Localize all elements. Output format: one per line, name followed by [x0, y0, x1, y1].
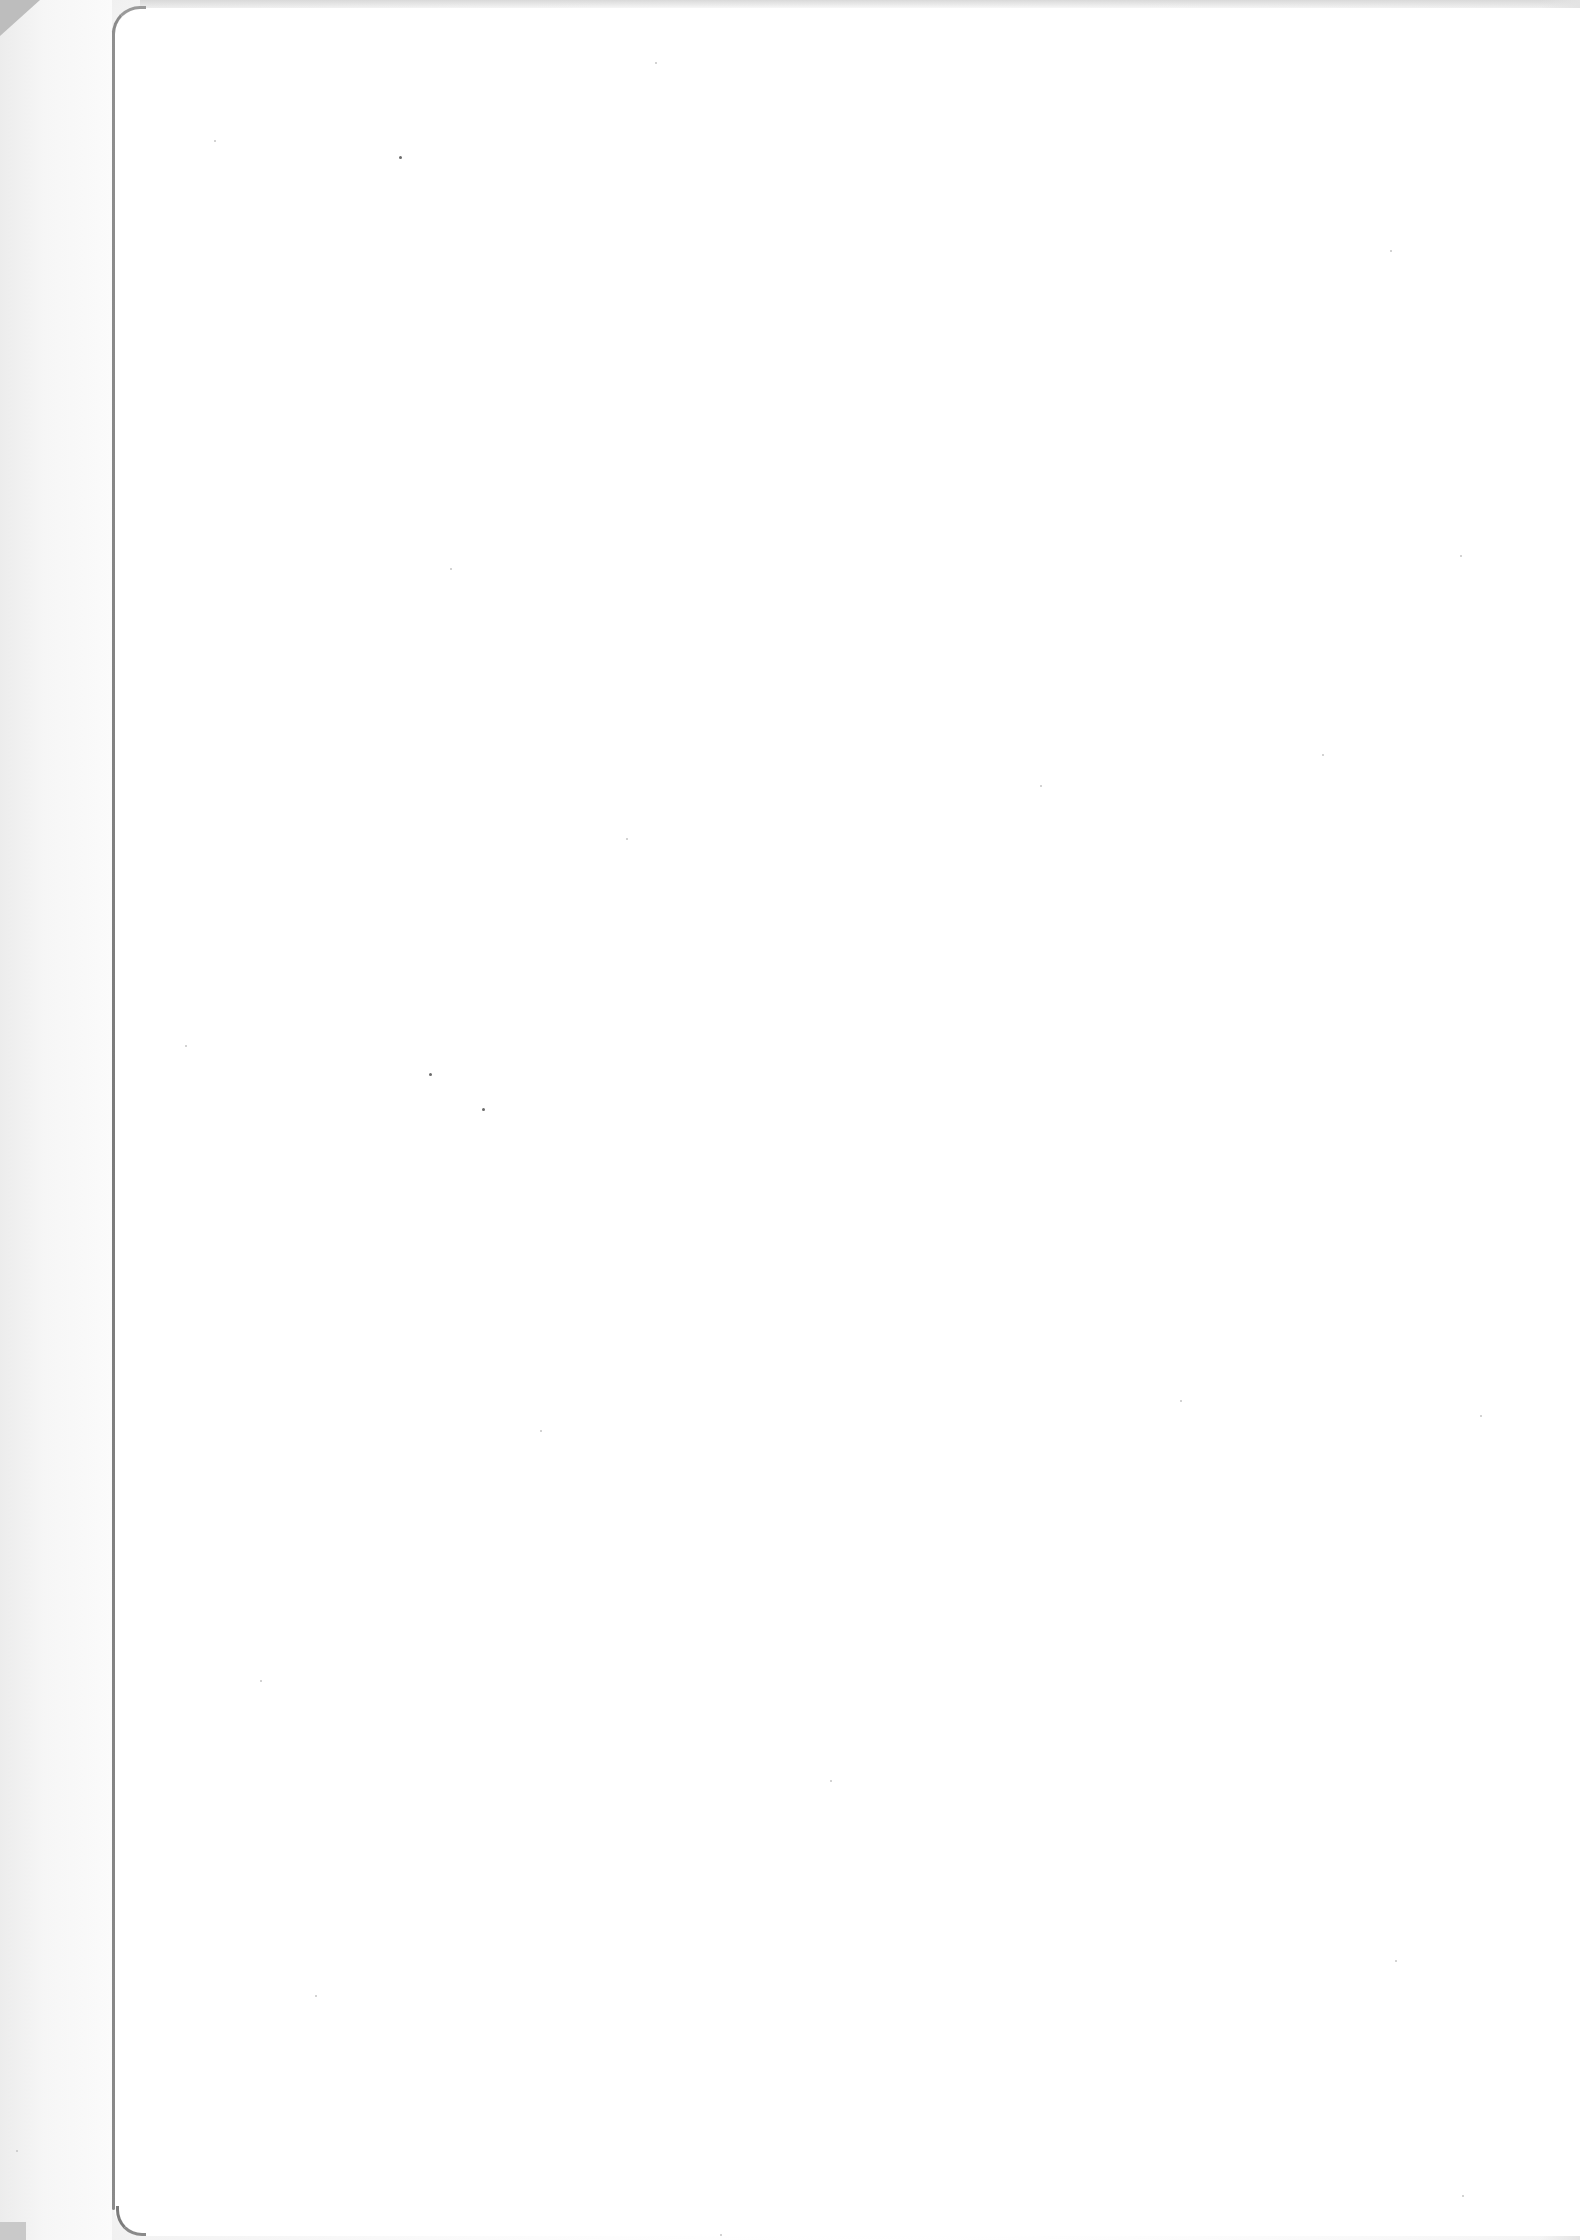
dust-speck — [655, 62, 657, 64]
scanned-page — [0, 0, 1580, 2240]
binding-fold-top — [112, 6, 146, 36]
dust-speck — [1040, 785, 1042, 787]
dust-speck — [1462, 2195, 1464, 2197]
dust-speck — [185, 1045, 187, 1047]
dust-speck — [1322, 754, 1324, 756]
dust-speck — [1180, 1400, 1182, 1402]
dust-speck — [1460, 555, 1462, 557]
dust-speck — [1480, 1415, 1482, 1417]
dust-speck — [482, 1108, 485, 1111]
binding-fold-line — [112, 30, 115, 2210]
dust-speck — [260, 1680, 262, 1682]
dust-speck — [315, 1995, 317, 1997]
dust-speck — [214, 140, 216, 142]
dust-speck — [626, 838, 628, 840]
dust-speck — [830, 1780, 832, 1782]
dust-speck — [720, 2234, 722, 2236]
binding-fold-bottom — [116, 2206, 146, 2236]
blank-page-sheet — [114, 8, 1580, 2236]
dust-speck — [429, 1073, 432, 1076]
dust-speck — [540, 1430, 542, 1432]
dust-speck — [1395, 1960, 1397, 1962]
left-margin-shadow — [0, 0, 112, 2240]
dust-speck — [450, 568, 452, 570]
dust-speck — [16, 2150, 18, 2152]
bottom-left-corner-shadow — [0, 2222, 26, 2240]
dust-speck — [399, 156, 402, 159]
dust-speck — [1390, 250, 1392, 252]
